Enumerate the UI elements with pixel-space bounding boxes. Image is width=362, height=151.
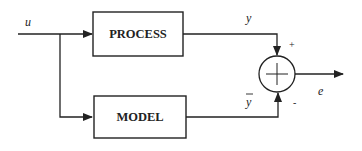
plus-sign-label: + <box>289 40 295 50</box>
model-output-label: y <box>246 96 251 108</box>
process-output-line <box>183 34 277 55</box>
process-label: PROCESS <box>93 27 183 42</box>
model-output-line <box>186 93 278 117</box>
input-signal-label: u <box>25 16 31 28</box>
process-output-label: y <box>246 12 251 24</box>
branch-to-model-line <box>60 34 92 117</box>
diagram-canvas <box>0 0 362 151</box>
model-label: MODEL <box>94 110 186 125</box>
error-output-label: e <box>318 85 323 97</box>
minus-sign-label: - <box>293 98 296 108</box>
